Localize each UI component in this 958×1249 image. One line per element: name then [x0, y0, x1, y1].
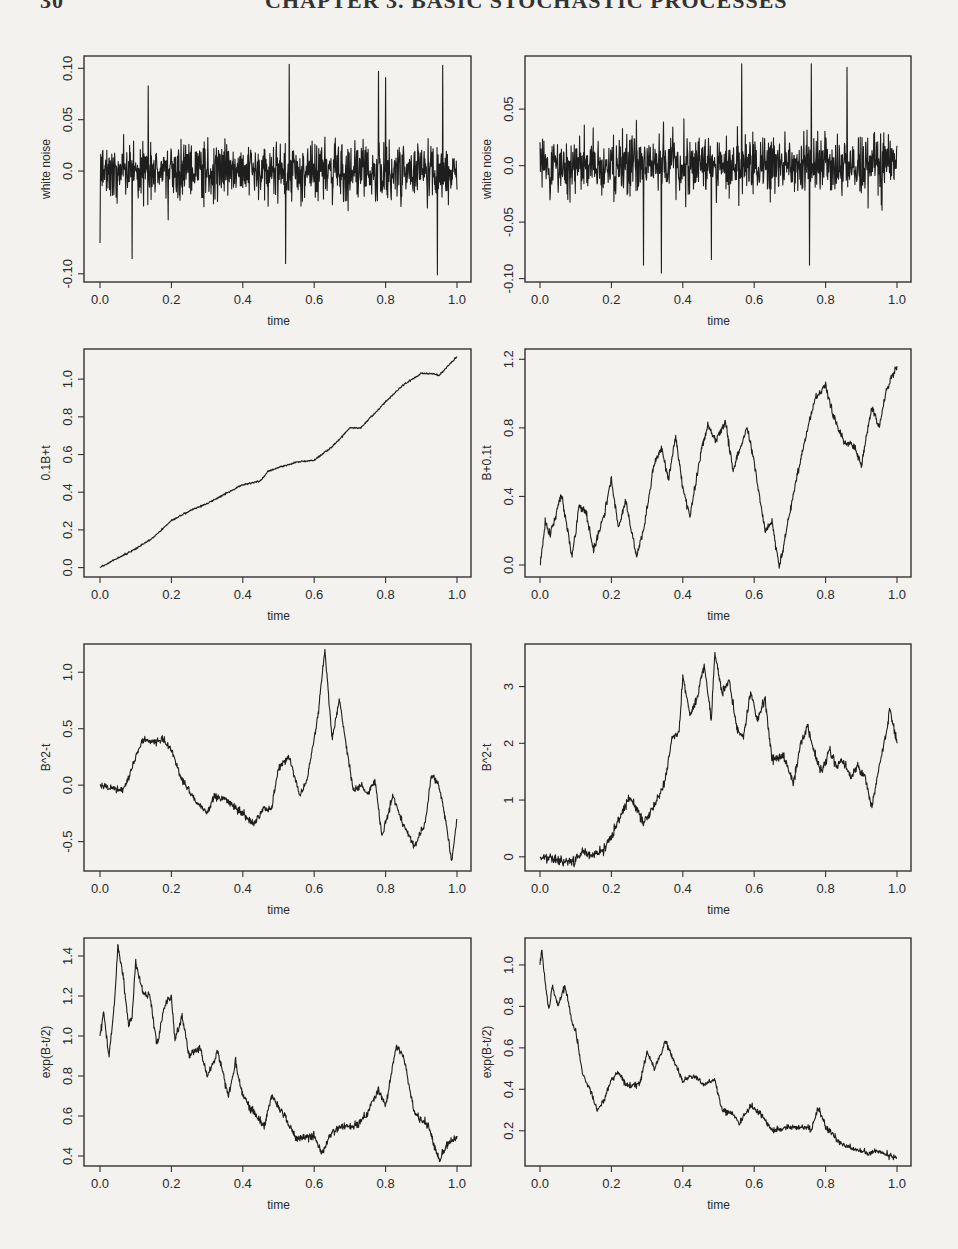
data-series-line — [100, 357, 457, 568]
data-series-line — [540, 950, 897, 1159]
y-tick-label: 0.4 — [501, 1080, 516, 1098]
x-tick-label: 0.2 — [162, 1176, 180, 1191]
data-series-line — [540, 366, 897, 568]
plot-p42: 0.00.20.40.60.81.0time0.20.40.60.81.0exp… — [480, 938, 911, 1212]
y-tick-label: 0.8 — [60, 408, 75, 426]
plot-p41: 0.00.20.40.60.81.0time0.40.60.81.01.21.4… — [39, 938, 471, 1212]
x-axis-label: time — [707, 1198, 730, 1212]
y-tick-label: 0.4 — [60, 1147, 75, 1165]
plot-p22: 0.00.20.40.60.81.0time0.00.40.81.2B+0.1t — [480, 349, 911, 623]
x-tick-label: 0.0 — [531, 881, 549, 896]
y-tick-label: 0.2 — [60, 521, 75, 539]
y-tick-label: 0.6 — [501, 1039, 516, 1057]
x-tick-label: 0.6 — [305, 292, 323, 307]
x-tick-label: 1.0 — [888, 292, 906, 307]
data-series-line — [100, 945, 457, 1162]
plot-frame — [84, 349, 471, 577]
x-tick-label: 1.0 — [888, 1176, 906, 1191]
plot-frame — [84, 644, 471, 871]
x-tick-label: 0.2 — [602, 587, 620, 602]
x-tick-label: 0.0 — [91, 1176, 109, 1191]
x-tick-label: 0.8 — [817, 587, 835, 602]
x-tick-label: 1.0 — [888, 881, 906, 896]
x-tick-label: 0.4 — [674, 881, 692, 896]
y-tick-label: 0.0 — [501, 556, 516, 574]
x-tick-label: 0.6 — [745, 292, 763, 307]
y-tick-label: 1.2 — [60, 987, 75, 1005]
data-series-line — [540, 652, 897, 867]
y-tick-label: 0.8 — [501, 419, 516, 437]
plot-p11: 0.00.20.40.60.81.0time-0.100.00.050.10wh… — [39, 56, 471, 328]
y-axis-label: exp(B-t/2) — [39, 1026, 53, 1079]
y-axis-label: exp(B-t/2) — [480, 1026, 494, 1079]
y-tick-label: 0.5 — [60, 720, 75, 738]
x-axis-label: time — [707, 609, 730, 623]
x-tick-label: 0.6 — [305, 1176, 323, 1191]
x-tick-label: 0.6 — [745, 587, 763, 602]
y-tick-label: -0.05 — [501, 207, 516, 237]
x-tick-label: 0.4 — [674, 1176, 692, 1191]
y-axis-label: B^2-t — [39, 743, 53, 771]
x-tick-label: 0.0 — [91, 881, 109, 896]
y-tick-label: 0.0 — [60, 776, 75, 794]
y-tick-label: 0.0 — [501, 157, 516, 175]
x-tick-label: 0.4 — [234, 587, 252, 602]
x-tick-label: 0.8 — [817, 881, 835, 896]
x-tick-label: 0.2 — [602, 1176, 620, 1191]
x-axis-label: time — [267, 1198, 290, 1212]
x-axis-label: time — [707, 314, 730, 328]
y-axis-label: white noise — [480, 139, 494, 200]
y-tick-label: 0.8 — [60, 1067, 75, 1085]
x-tick-label: 0.8 — [377, 292, 395, 307]
y-tick-label: 0.6 — [60, 445, 75, 463]
x-tick-label: 0.6 — [745, 881, 763, 896]
y-tick-label: 2 — [501, 740, 516, 747]
x-tick-label: 0.8 — [377, 1176, 395, 1191]
y-tick-label: 0.0 — [60, 559, 75, 577]
plot-p12: 0.00.20.40.60.81.0time-0.10-0.050.00.05w… — [480, 56, 911, 328]
y-axis-label: B+0.1t — [480, 445, 494, 481]
y-tick-label: 1.4 — [60, 947, 75, 965]
y-tick-label: 0.05 — [501, 96, 516, 121]
plot-frame — [525, 644, 911, 871]
y-tick-label: 0.05 — [60, 107, 75, 132]
x-tick-label: 1.0 — [448, 292, 466, 307]
x-tick-label: 0.8 — [817, 292, 835, 307]
plot-p21: 0.00.20.40.60.81.0time0.00.20.40.60.81.0… — [39, 349, 471, 623]
plot-frame — [525, 349, 911, 577]
x-tick-label: 0.0 — [531, 292, 549, 307]
x-tick-label: 0.4 — [234, 1176, 252, 1191]
y-tick-label: 0.4 — [60, 483, 75, 501]
y-tick-label: 0.2 — [501, 1122, 516, 1140]
x-axis-label: time — [267, 903, 290, 917]
y-tick-label: 1.2 — [501, 350, 516, 368]
y-tick-label: 1 — [501, 796, 516, 803]
x-axis-label: time — [267, 609, 290, 623]
x-tick-label: 0.8 — [377, 881, 395, 896]
y-tick-label: 0.10 — [60, 56, 75, 81]
y-axis-label: 0.1B+t — [39, 445, 53, 481]
y-axis-label: B^2-t — [480, 743, 494, 771]
x-tick-label: 1.0 — [448, 881, 466, 896]
data-series-line — [100, 64, 457, 275]
x-tick-label: 0.8 — [817, 1176, 835, 1191]
x-tick-label: 0.2 — [162, 292, 180, 307]
x-tick-label: 0.4 — [674, 292, 692, 307]
x-tick-label: 0.6 — [305, 587, 323, 602]
x-tick-label: 0.6 — [305, 881, 323, 896]
x-tick-label: 0.8 — [377, 587, 395, 602]
x-tick-label: 1.0 — [448, 1176, 466, 1191]
y-tick-label: 0.6 — [60, 1107, 75, 1125]
plot-frame — [84, 938, 471, 1166]
plot-frame — [525, 938, 911, 1166]
data-series-line — [100, 649, 457, 860]
y-axis-label: white noise — [39, 139, 53, 200]
plot-p32: 0.00.20.40.60.81.0time0123B^2-t — [480, 644, 911, 917]
x-axis-label: time — [267, 314, 290, 328]
x-tick-label: 0.4 — [674, 587, 692, 602]
x-tick-label: 0.6 — [745, 1176, 763, 1191]
x-tick-label: 0.2 — [602, 292, 620, 307]
x-axis-label: time — [707, 903, 730, 917]
y-tick-label: -0.10 — [60, 259, 75, 289]
y-tick-label: -0.10 — [501, 264, 516, 294]
